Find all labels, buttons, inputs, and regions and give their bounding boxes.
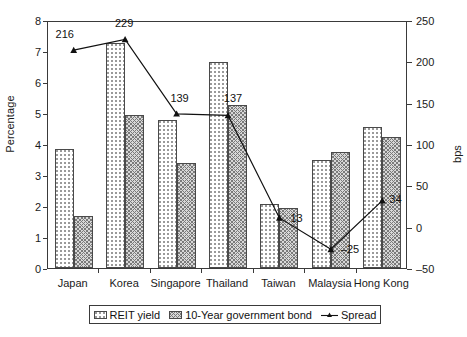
legend-item-reit-yield: REIT yield (94, 309, 161, 321)
y2-tick-label: 200 (416, 57, 446, 68)
y-tick-label: 0 (19, 264, 41, 275)
legend-label: 10-Year government bond (185, 309, 312, 321)
y2-tick-label: 250 (416, 16, 446, 27)
x-tick-label: Hong Kong (331, 278, 431, 289)
y-tick-label: 4 (19, 140, 41, 151)
data-label: 229 (109, 18, 139, 29)
y-tick-label: 2 (19, 202, 41, 213)
y-axis-label: Percentage (4, 79, 16, 169)
data-label: 13 (290, 213, 314, 224)
spread-marker (379, 197, 386, 203)
y2-tick-label: 100 (416, 140, 446, 151)
y-tick-label: 5 (19, 109, 41, 120)
y2-tick-label: 0 (416, 223, 446, 234)
chart-legend: REIT yield 10-Year government bond Sprea… (89, 305, 381, 324)
plot-area (47, 21, 407, 269)
legend-swatch-icon (94, 311, 107, 319)
y2-tick-label: 50 (416, 181, 446, 192)
legend-item-spread: Spread (321, 309, 376, 321)
data-label: –25 (341, 244, 371, 255)
data-label: 34 (389, 194, 415, 205)
y-tick-label: 3 (19, 171, 41, 182)
spread-line-series (48, 22, 408, 270)
legend-label: Spread (341, 309, 376, 321)
legend-item-government-bond: 10-Year government bond (169, 309, 312, 321)
y-tick-label: 6 (19, 78, 41, 89)
chart-figure: Percentage bps 012345678 –50050100150200… (0, 0, 467, 337)
legend-label: REIT yield (110, 309, 161, 321)
legend-line-marker-icon (321, 310, 338, 319)
spread-marker (276, 215, 283, 221)
y-tick-label: 7 (19, 47, 41, 58)
data-label: 216 (50, 29, 80, 40)
data-label: 139 (165, 93, 195, 104)
y2-tick-label: –50 (416, 264, 446, 275)
spread-marker (122, 36, 129, 42)
y2-tick-label: 150 (416, 99, 446, 110)
y-tick-mark (43, 269, 47, 270)
data-label: 137 (218, 93, 248, 104)
y-tick-label: 1 (19, 233, 41, 244)
y2-axis-label: bps (451, 134, 463, 174)
y-tick-label: 8 (19, 16, 41, 27)
legend-swatch-icon (169, 311, 182, 319)
spread-polyline (74, 39, 383, 249)
